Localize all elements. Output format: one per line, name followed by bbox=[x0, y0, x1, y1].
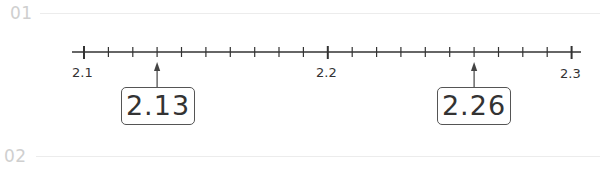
ticks bbox=[84, 46, 572, 59]
answer-box-2-26: 2.26 bbox=[437, 87, 511, 125]
number-line: 2.1 2.2 2.3 bbox=[0, 0, 604, 179]
answer-box-2-13: 2.13 bbox=[121, 87, 195, 125]
problem-number-2: 02 bbox=[4, 146, 27, 166]
tick-label-2-3: 2.3 bbox=[560, 66, 581, 81]
arrow-2-13 bbox=[154, 62, 160, 88]
tick-label-2-1: 2.1 bbox=[72, 65, 93, 80]
problem-divider-2 bbox=[36, 156, 600, 157]
arrow-2-26 bbox=[471, 62, 477, 88]
tick-label-2-2: 2.2 bbox=[316, 65, 337, 80]
